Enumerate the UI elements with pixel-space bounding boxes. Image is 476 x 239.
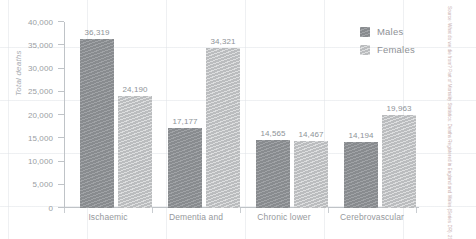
y-tick-label-2: 10,000 [28,157,53,166]
chart-container: Total deaths 0 5,000 10,000 15,000 20,00… [0,0,476,239]
y-axis-title: Total deaths [14,50,23,96]
y-axis-line [64,22,65,208]
bar-females-dementia[interactable]: 34,321 [206,48,240,208]
legend-swatch-females-icon [360,45,370,55]
y-tick-label-5: 25,000 [28,87,53,96]
bar-females-cerebrovascular[interactable]: 19,963 [382,115,416,208]
bar-value-males-cerebrovascular: 14,194 [348,131,373,140]
y-tick-label-4: 20,000 [28,110,53,119]
bar-males-dementia[interactable]: 17,177 [168,128,202,208]
y-tick-label-3: 15,000 [28,133,53,142]
y-tick-label-6: 30,000 [28,64,53,73]
y-tick-2: 10,000 [58,161,64,162]
y-tick-8: 40,000 [58,21,64,22]
y-tick-label-7: 35,000 [28,40,53,49]
x-tick-4 [416,208,417,213]
legend-swatch-males-icon [360,27,370,37]
bar-males-cerebrovascular[interactable]: 14,194 [344,142,378,208]
bar-females-ischaemic[interactable]: 24,190 [118,96,152,208]
y-tick-1: 5,000 [58,184,64,185]
bar-value-males-dementia: 17,177 [172,117,197,126]
bar-females-chronic-lower[interactable]: 14,467 [294,141,328,208]
y-tick-5: 25,000 [58,91,64,92]
legend-item-females[interactable]: Females [360,44,440,55]
y-tick-6: 30,000 [58,68,64,69]
x-category-label-cerebrovascular: Cerebrovascular [328,212,416,222]
bar-value-females-chronic-lower: 14,467 [298,130,323,139]
bar-value-females-ischaemic: 24,190 [122,85,147,94]
bar-value-males-chronic-lower: 14,565 [260,129,285,138]
y-tick-7: 35,000 [58,44,64,45]
y-tick-4: 20,000 [58,114,64,115]
y-tick-3: 15,000 [58,137,64,138]
y-tick-label-1: 5,000 [32,180,53,189]
x-category-label-chronic-lower: Chronic lower [240,212,328,222]
legend-label-males: Males [377,26,403,37]
y-tick-label-8: 40,000 [28,17,53,26]
legend-label-females: Females [377,44,415,55]
bar-value-males-ischaemic: 36,319 [84,28,109,37]
x-category-label-ischaemic: Ischaemic [64,212,152,222]
bar-value-females-cerebrovascular: 19,963 [386,104,411,113]
source-note: Source: What do we die from? Part of Mor… [447,6,452,238]
bar-males-chronic-lower[interactable]: 14,565 [256,140,290,208]
y-tick-label-0: 0 [48,203,53,212]
bar-males-ischaemic[interactable]: 36,319 [80,39,114,208]
chart-legend: Males Females [360,26,440,62]
legend-item-males[interactable]: Males [360,26,440,37]
x-category-label-dementia: Dementia and [152,212,240,222]
bar-value-females-dementia: 34,321 [210,37,235,46]
